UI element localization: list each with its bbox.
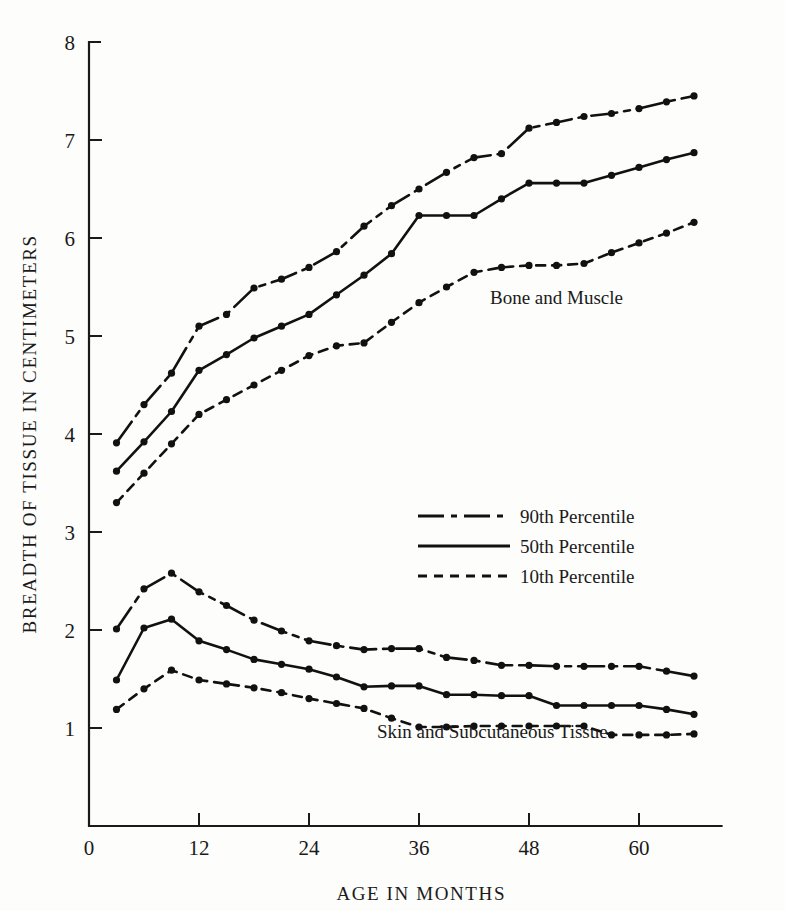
- data-point: [250, 284, 257, 291]
- series-line-dashed: [117, 670, 695, 735]
- data-point: [333, 642, 340, 649]
- data-point: [250, 617, 257, 624]
- data-point: [608, 702, 615, 709]
- data-point: [415, 299, 422, 306]
- data-point: [168, 440, 175, 447]
- data-point: [525, 692, 532, 699]
- data-point: [443, 283, 450, 290]
- data-point: [415, 212, 422, 219]
- data-point: [113, 439, 120, 446]
- line-chart: [0, 0, 785, 911]
- data-point: [498, 692, 505, 699]
- data-point: [360, 223, 367, 230]
- data-point: [250, 656, 257, 663]
- data-point: [553, 262, 560, 269]
- data-point: [470, 154, 477, 161]
- data-point: [113, 499, 120, 506]
- data-point: [168, 570, 175, 577]
- data-point: [663, 706, 670, 713]
- data-point: [690, 673, 697, 680]
- data-point: [525, 722, 532, 729]
- data-point: [415, 185, 422, 192]
- data-point: [663, 731, 670, 738]
- data-point: [360, 705, 367, 712]
- data-point: [113, 625, 120, 632]
- series-line-dash-dot: [117, 96, 695, 443]
- data-point: [415, 682, 422, 689]
- data-point: [250, 381, 257, 388]
- data-point: [333, 700, 340, 707]
- series-group-bone-and-muscle: [113, 92, 698, 506]
- data-point: [470, 212, 477, 219]
- data-point: [635, 702, 642, 709]
- data-point: [525, 125, 532, 132]
- data-point: [140, 401, 147, 408]
- data-point: [663, 230, 670, 237]
- data-point: [690, 219, 697, 226]
- data-point: [305, 666, 312, 673]
- data-point: [333, 342, 340, 349]
- data-point: [553, 663, 560, 670]
- data-point: [140, 624, 147, 631]
- data-point: [250, 684, 257, 691]
- data-point: [470, 691, 477, 698]
- data-point: [580, 702, 587, 709]
- data-point: [333, 248, 340, 255]
- data-point: [140, 685, 147, 692]
- data-point: [443, 654, 450, 661]
- series-line-dash-dot: [117, 573, 695, 676]
- data-point: [580, 663, 587, 670]
- data-point: [360, 272, 367, 279]
- data-point: [553, 180, 560, 187]
- data-point: [168, 667, 175, 674]
- data-point: [278, 323, 285, 330]
- data-point: [635, 731, 642, 738]
- data-point: [498, 264, 505, 271]
- data-point: [140, 585, 147, 592]
- data-point: [278, 661, 285, 668]
- data-point: [195, 676, 202, 683]
- data-point: [498, 722, 505, 729]
- data-point: [498, 150, 505, 157]
- data-point: [360, 339, 367, 346]
- data-point: [250, 334, 257, 341]
- data-point: [443, 691, 450, 698]
- data-point: [635, 164, 642, 171]
- data-point: [690, 711, 697, 718]
- data-point: [553, 119, 560, 126]
- data-point: [278, 689, 285, 696]
- data-point: [388, 645, 395, 652]
- data-point: [690, 730, 697, 737]
- data-point: [305, 264, 312, 271]
- data-point: [113, 468, 120, 475]
- data-point: [168, 370, 175, 377]
- data-point: [580, 722, 587, 729]
- data-point: [333, 673, 340, 680]
- series-line-solid: [117, 619, 695, 714]
- data-point: [305, 695, 312, 702]
- data-point: [195, 588, 202, 595]
- data-point: [113, 676, 120, 683]
- chart-legend: [418, 516, 510, 576]
- data-point: [498, 662, 505, 669]
- data-point: [470, 722, 477, 729]
- data-point: [635, 105, 642, 112]
- data-point: [140, 470, 147, 477]
- data-point: [415, 723, 422, 730]
- data-point: [223, 351, 230, 358]
- data-point: [553, 722, 560, 729]
- data-point: [388, 319, 395, 326]
- data-point: [168, 616, 175, 623]
- data-point: [580, 260, 587, 267]
- data-point: [195, 637, 202, 644]
- chart-container: 1234567801224364860AGE IN MONTHSBREADTH …: [0, 0, 785, 911]
- data-point: [223, 646, 230, 653]
- data-point: [690, 92, 697, 99]
- data-point: [223, 311, 230, 318]
- data-point: [608, 663, 615, 670]
- data-point: [635, 239, 642, 246]
- data-point: [360, 646, 367, 653]
- data-point: [608, 110, 615, 117]
- data-point: [525, 180, 532, 187]
- series-group-skin-and-subcutaneous-tissue: [113, 570, 698, 739]
